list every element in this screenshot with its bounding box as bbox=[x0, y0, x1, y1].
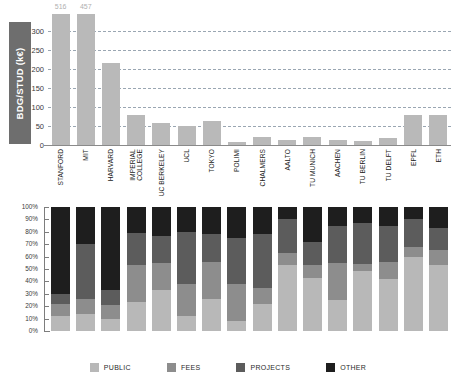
category-label: HARVARD bbox=[98, 147, 123, 205]
bar-uc-berkeley bbox=[152, 123, 170, 145]
bar-slot bbox=[350, 23, 375, 145]
category-label: STANFORD bbox=[48, 147, 73, 205]
category-label-text: EPFL bbox=[410, 149, 417, 166]
bar-tu-munich bbox=[303, 137, 321, 145]
percent-tick-label: 80% bbox=[25, 228, 38, 235]
axis-tick bbox=[44, 294, 49, 295]
bar-stanford: 516 bbox=[52, 14, 70, 145]
segment-fees bbox=[404, 247, 423, 257]
segment-fees bbox=[177, 284, 196, 316]
stacked-bar-slot bbox=[401, 207, 426, 331]
segment-other bbox=[253, 207, 272, 234]
y-axis-tick-label: 200 bbox=[18, 64, 44, 73]
segment-fees bbox=[127, 265, 146, 302]
segment-projects bbox=[379, 226, 398, 262]
y-axis-tick-label: 150 bbox=[18, 83, 44, 92]
category-label: MIT bbox=[73, 147, 98, 205]
stacked-bar-tu-munich bbox=[303, 207, 322, 331]
stacked-bar-slot bbox=[350, 207, 375, 331]
segment-public bbox=[152, 290, 171, 331]
segment-projects bbox=[152, 236, 171, 263]
bar-tokyo bbox=[203, 121, 221, 145]
plot-area-bottom bbox=[48, 207, 451, 331]
stacked-bar-mit bbox=[76, 207, 95, 331]
bar-slot: 516 bbox=[48, 23, 73, 145]
legend-item: OTHER bbox=[326, 363, 366, 372]
bar-value-label: 457 bbox=[80, 3, 92, 10]
category-label: TOKYO bbox=[199, 147, 224, 205]
category-label-text: TOKYO bbox=[208, 149, 215, 172]
percent-tick-label: 40% bbox=[25, 277, 38, 284]
segment-fees bbox=[253, 288, 272, 304]
stacked-bar-tu-delft bbox=[379, 207, 398, 331]
segment-other bbox=[202, 207, 221, 234]
segment-fees bbox=[278, 253, 297, 265]
legend-item: PUBLIC bbox=[90, 363, 131, 372]
stacked-bar-slot bbox=[149, 207, 174, 331]
category-label-text: AACHEN bbox=[334, 149, 341, 177]
bar-mit: 457 bbox=[77, 14, 95, 145]
stacked-bar-slot bbox=[174, 207, 199, 331]
segment-other bbox=[328, 207, 347, 226]
segment-other bbox=[227, 207, 246, 238]
category-label: AALTO bbox=[275, 147, 300, 205]
segment-fees bbox=[202, 262, 221, 299]
segment-public bbox=[202, 299, 221, 331]
bar-slot bbox=[98, 23, 123, 145]
segment-fees bbox=[353, 264, 372, 271]
y-axis-tick-label: 250 bbox=[18, 45, 44, 54]
bar-epfl bbox=[404, 115, 422, 145]
stacked-bar-imperial-college bbox=[127, 207, 146, 331]
segment-projects bbox=[278, 219, 297, 252]
bar-chalmers bbox=[253, 137, 271, 145]
bar-tu-delft bbox=[379, 138, 397, 145]
stacked-bar-uc-berkeley bbox=[152, 207, 171, 331]
legend-label: PROJECTS bbox=[250, 364, 290, 371]
segment-projects bbox=[76, 244, 95, 299]
stacked-bar-ucl bbox=[177, 207, 196, 331]
segment-other bbox=[353, 207, 372, 223]
category-label-text: TU DELFT bbox=[385, 149, 392, 181]
legend-label: FEES bbox=[181, 364, 200, 371]
category-label: POLIMI bbox=[224, 147, 249, 205]
axis-tick bbox=[44, 306, 49, 307]
bar-slot bbox=[124, 23, 149, 145]
stacked-bar-eth bbox=[429, 207, 448, 331]
category-label: UC BERKELEY bbox=[149, 147, 174, 205]
axis-tick bbox=[44, 319, 49, 320]
segment-projects bbox=[429, 228, 448, 250]
segment-other bbox=[152, 207, 171, 236]
stacked-bar-slot bbox=[250, 207, 275, 331]
bar-slot bbox=[149, 23, 174, 145]
segment-other bbox=[379, 207, 398, 226]
percent-tick-label: 70% bbox=[25, 240, 38, 247]
bar-slot bbox=[250, 23, 275, 145]
stacked-bar-stanford bbox=[51, 207, 70, 331]
bar-slot bbox=[199, 23, 224, 145]
legend-swatch-public bbox=[90, 363, 99, 372]
segment-public bbox=[127, 302, 146, 331]
bar-ucl bbox=[178, 126, 196, 145]
segment-fees bbox=[379, 262, 398, 279]
stacked-bar-series bbox=[48, 207, 451, 331]
category-label: TU BERLIN bbox=[350, 147, 375, 205]
segment-projects bbox=[101, 290, 120, 305]
segment-other bbox=[429, 207, 448, 228]
bar-slot: 457 bbox=[73, 23, 98, 145]
category-label: TU DELFT bbox=[375, 147, 400, 205]
segment-projects bbox=[253, 234, 272, 287]
budget-per-student-bar-chart: BDG/STUD (k€) 050100150200250300 516457 bbox=[0, 0, 456, 150]
bar-slot bbox=[275, 23, 300, 145]
segment-other bbox=[76, 207, 95, 244]
segment-public bbox=[51, 316, 70, 331]
category-label-text: STANFORD bbox=[57, 149, 64, 186]
y-axis-tick-labels-bottom: 0%10%20%30%40%50%60%70%80%90%100% bbox=[16, 207, 44, 331]
category-label-text: IMPERIAL COLLEGE bbox=[129, 149, 143, 181]
axis-tick bbox=[44, 269, 49, 270]
legend-swatch-projects bbox=[236, 363, 245, 372]
axis-tick bbox=[44, 207, 49, 208]
bar-series-budget: 516457 bbox=[48, 23, 451, 145]
category-label: IMPERIAL COLLEGE bbox=[124, 147, 149, 205]
percent-tick-label: 100% bbox=[22, 203, 38, 210]
stacked-bar-slot bbox=[48, 207, 73, 331]
